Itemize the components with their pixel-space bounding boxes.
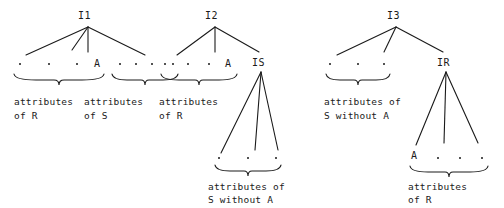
- tree-1-leaf-dot: [76, 63, 78, 65]
- tree-1-brace-group-1: [12, 72, 106, 86]
- subtree-is-leaf-dot: [247, 157, 249, 159]
- subtree-is-edges: [155, 0, 330, 175]
- subtree-is-caption-line1: attributes of: [208, 181, 285, 194]
- tree-1-leaf-dot: [119, 63, 121, 65]
- tree-1-caption-group-2-line1: attributes: [84, 96, 143, 109]
- tree-1-caption-group-2-line2: of S: [84, 110, 108, 123]
- subtree-ir-leaf-dot: [459, 157, 461, 159]
- tree-1-leaf-dot: [48, 63, 50, 65]
- subtree-ir-leaf-dot: [437, 157, 439, 159]
- subtree-ir-caption-line1: attributes: [408, 181, 467, 194]
- tree-1-leaf-dot: [135, 63, 137, 65]
- tree-1-leaf-dot: [151, 63, 153, 65]
- subtree-ir-leaf-attribute-a: A: [411, 150, 417, 161]
- subtree-ir-brace-group-1: [408, 164, 490, 178]
- subtree-ir-edges: [315, 0, 504, 165]
- tree-1-caption-group-1-line1: attributes: [14, 96, 73, 109]
- subtree-is-leaf-dot: [275, 157, 277, 159]
- subtree-ir-caption-line2: of R: [408, 194, 432, 207]
- tree-1-leaf-dot: [19, 63, 21, 65]
- tree-1: I1 A attributes of R attributes of S: [0, 0, 180, 130]
- subtree-ir-leaf-dot: [481, 157, 483, 159]
- subtree-is-brace-group-1: [213, 163, 283, 177]
- subtree-is-caption-line2: S without A: [208, 194, 273, 207]
- tree-3: I3 attributes of S without A IR A: [315, 0, 504, 208]
- tree-2: I2 A attributes of R IS: [155, 0, 330, 208]
- subtree-is-leaf-dot: [218, 157, 220, 159]
- diagram-canvas: I1 A attributes of R attributes of S: [0, 0, 504, 208]
- tree-1-caption-group-1-line2: of R: [14, 110, 38, 123]
- tree-1-leaf-attribute-a: A: [94, 58, 100, 69]
